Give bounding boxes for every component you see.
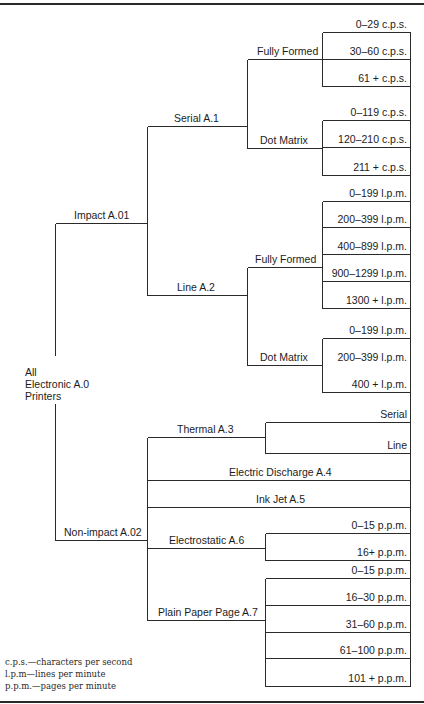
root-line-1: All [25, 366, 89, 378]
non-impact-label: Non-impact A.02 [64, 526, 142, 538]
range-label: 0–15 p.p.m. [352, 519, 407, 531]
serial-fully-formed-label: Fully Formed [257, 45, 318, 57]
impact-label: Impact A.01 [74, 209, 129, 221]
range-label: 61–100 p.p.m. [340, 644, 407, 656]
range-label: 101 + p.p.m. [348, 672, 407, 684]
legend-entry-cps: c.p.s.—characters per second [5, 656, 132, 668]
range-label: 0–199 l.p.m. [349, 324, 407, 336]
line-dot-matrix-label: Dot Matrix [260, 351, 308, 363]
thermal-label: Thermal A.3 [177, 423, 234, 435]
range-label: 0–119 c.p.s. [351, 106, 407, 118]
serial-label: Serial A.1 [174, 112, 219, 124]
line-fully-formed-label: Fully Formed [255, 253, 316, 265]
range-label: 0–29 c.p.s. [356, 18, 407, 30]
root-line-3: Printers [25, 390, 89, 402]
abbreviation-legend: c.p.s.—characters per second l.p.m—lines… [5, 656, 132, 692]
range-label: 16–30 p.p.m. [346, 591, 407, 603]
thermal-type-label: Line [387, 439, 407, 451]
range-label: 16+ p.p.m. [357, 546, 407, 558]
range-label: 400 + l.p.m. [352, 378, 407, 390]
electrostatic-label: Electrostatic A.6 [169, 534, 244, 546]
range-label: 200–399 l.p.m. [338, 213, 407, 225]
range-label: 211 + c.p.s. [353, 161, 407, 173]
range-label: 0–15 p.p.m. [352, 564, 407, 576]
ink-jet-label: Ink Jet A.5 [256, 493, 305, 505]
plain-paper-label: Plain Paper Page A.7 [158, 606, 258, 618]
root-node-label: All Electronic A.0 Printers [25, 366, 89, 402]
range-label: 31–60 p.p.m. [346, 618, 407, 630]
electric-discharge-label: Electric Discharge A.4 [229, 466, 332, 478]
range-label: 1300 + l.p.m. [346, 294, 407, 306]
root-line-2: Electronic A.0 [25, 378, 89, 390]
serial-dot-matrix-label: Dot Matrix [260, 134, 308, 146]
legend-entry-ppm: p.p.m.—pages per minute [5, 680, 132, 692]
range-label: 200–399 l.p.m. [338, 351, 407, 363]
range-label: 0–199 l.p.m. [349, 187, 407, 199]
range-label: 30–60 c.p.s. [350, 45, 407, 57]
range-label: 120–210 c.p.s. [338, 133, 407, 145]
thermal-type-label: Serial [380, 408, 407, 420]
line-label: Line A.2 [177, 281, 215, 293]
range-label: 900–1299 l.p.m. [332, 267, 407, 279]
range-label: 400–899 l.p.m. [338, 240, 407, 252]
range-label: 61 + c.p.s. [358, 72, 407, 84]
legend-entry-lpm: l.p.m—lines per minute [5, 668, 132, 680]
